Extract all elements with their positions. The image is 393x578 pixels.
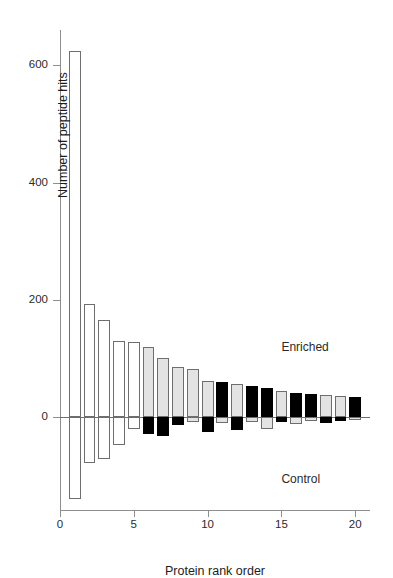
bar-control-9 bbox=[187, 417, 199, 422]
bar-enriched-2 bbox=[84, 304, 96, 417]
x-tick-label: 10 bbox=[193, 519, 223, 531]
bar-enriched-16 bbox=[290, 393, 302, 418]
bar-enriched-17 bbox=[305, 394, 317, 417]
bar-control-17 bbox=[305, 417, 317, 421]
annotation-enriched: Enriched bbox=[281, 340, 328, 354]
bar-enriched-18 bbox=[320, 395, 332, 417]
bar-control-18 bbox=[320, 417, 332, 423]
bar-control-13 bbox=[246, 417, 258, 422]
bar-enriched-19 bbox=[335, 396, 347, 417]
x-tick-label: 5 bbox=[119, 519, 149, 531]
x-tick bbox=[60, 511, 61, 517]
bar-enriched-10 bbox=[202, 381, 214, 417]
bar-enriched-1 bbox=[69, 51, 81, 417]
bar-control-3 bbox=[98, 417, 110, 459]
y-axis-label: Number of peptide hits bbox=[56, 72, 70, 198]
x-tick bbox=[281, 511, 282, 517]
bar-control-16 bbox=[290, 417, 302, 424]
bar-control-11 bbox=[216, 417, 228, 423]
bar-control-20 bbox=[349, 417, 361, 420]
bar-control-7 bbox=[157, 417, 169, 436]
y-tick-label: 400 bbox=[4, 177, 48, 189]
x-tick-label: 0 bbox=[45, 519, 75, 531]
bar-enriched-4 bbox=[113, 341, 125, 417]
bar-enriched-15 bbox=[276, 391, 288, 417]
bar-control-2 bbox=[84, 417, 96, 463]
y-tick bbox=[53, 65, 60, 66]
bar-control-6 bbox=[143, 417, 155, 433]
bar-enriched-13 bbox=[246, 386, 258, 417]
bar-enriched-7 bbox=[157, 358, 169, 417]
bar-enriched-3 bbox=[98, 320, 110, 417]
bar-control-1 bbox=[69, 417, 81, 499]
bar-control-8 bbox=[172, 417, 184, 425]
y-tick bbox=[53, 300, 60, 301]
annotation-control: Control bbox=[281, 472, 320, 486]
x-axis-line bbox=[60, 510, 370, 511]
bar-control-12 bbox=[231, 417, 243, 430]
x-axis-label: Protein rank order bbox=[60, 564, 370, 578]
y-tick-label: 200 bbox=[4, 294, 48, 306]
bar-control-5 bbox=[128, 417, 140, 429]
y-tick bbox=[53, 417, 60, 418]
x-tick-label: 15 bbox=[266, 519, 296, 531]
bar-control-4 bbox=[113, 417, 125, 445]
bar-enriched-14 bbox=[261, 388, 273, 417]
x-tick bbox=[134, 511, 135, 517]
plot-area: 0200400600 05101520 EnrichedControl Numb… bbox=[60, 30, 370, 511]
bar-enriched-20 bbox=[349, 397, 361, 418]
bar-control-15 bbox=[276, 417, 288, 422]
bar-enriched-5 bbox=[128, 342, 140, 417]
bar-enriched-11 bbox=[216, 382, 228, 417]
bar-enriched-6 bbox=[143, 347, 155, 417]
x-tick bbox=[355, 511, 356, 517]
bar-control-19 bbox=[335, 417, 347, 421]
bar-enriched-12 bbox=[231, 384, 243, 417]
x-tick bbox=[208, 511, 209, 517]
y-tick-label: 0 bbox=[4, 411, 48, 423]
bar-control-14 bbox=[261, 417, 273, 429]
y-tick-label: 600 bbox=[4, 59, 48, 71]
bar-enriched-9 bbox=[187, 369, 199, 417]
x-tick-label: 20 bbox=[340, 519, 370, 531]
bar-control-10 bbox=[202, 417, 214, 432]
bar-enriched-8 bbox=[172, 367, 184, 417]
